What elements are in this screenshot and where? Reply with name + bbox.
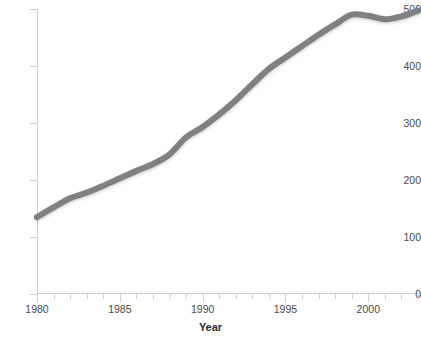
line-chart: 0100200300400500 19801985199019952000 Ye… — [0, 0, 421, 340]
series-layer — [0, 0, 421, 340]
x-axis-title: Year — [0, 321, 421, 333]
series-line — [37, 11, 418, 217]
